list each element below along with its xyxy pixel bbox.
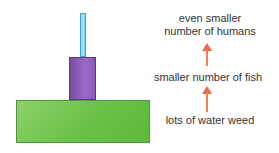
water-weed-bar bbox=[16, 100, 150, 143]
humans-bar bbox=[80, 13, 86, 57]
arrow-up-icon bbox=[202, 86, 212, 112]
arrow-up-icon bbox=[202, 43, 212, 66]
humans-label-line2: number of humans bbox=[150, 25, 270, 38]
humans-label-line1: even smaller bbox=[150, 12, 270, 25]
fish-label: smaller number of fish bbox=[140, 71, 276, 84]
fish-bar bbox=[69, 57, 96, 100]
water-weed-label: lots of water weed bbox=[150, 114, 270, 127]
humans-label: even smaller number of humans bbox=[150, 12, 270, 38]
